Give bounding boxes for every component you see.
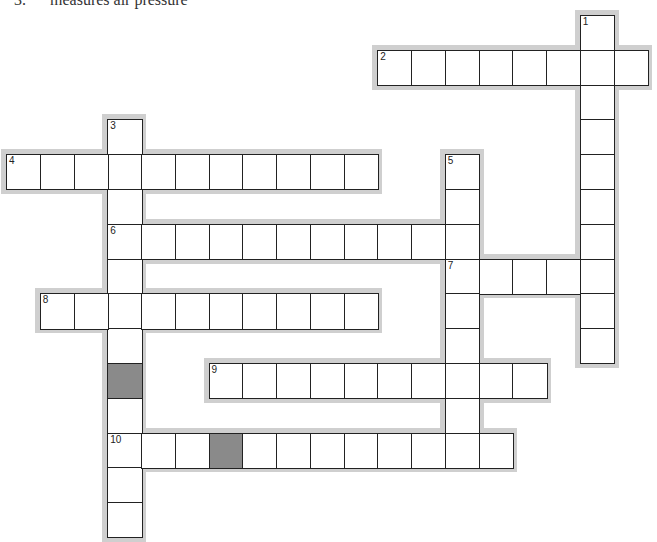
- crossword-cell[interactable]: [479, 259, 514, 295]
- crossword-cell[interactable]: [479, 50, 514, 86]
- clue-number-label: 7: [448, 261, 454, 271]
- crossword-cell[interactable]: [276, 433, 311, 469]
- crossword-cell[interactable]: [445, 328, 480, 364]
- crossword-cell[interactable]: 7: [445, 259, 480, 295]
- clue-number-label: 3: [110, 121, 116, 131]
- crossword-cell[interactable]: [175, 224, 210, 260]
- crossword-cell[interactable]: 2: [377, 50, 412, 86]
- crossword-cell[interactable]: [344, 363, 379, 399]
- crossword-cell[interactable]: [175, 433, 210, 469]
- crossword-cell[interactable]: 5: [445, 154, 480, 190]
- crossword-cell[interactable]: [310, 154, 345, 190]
- crossword-cell[interactable]: [580, 224, 615, 260]
- crossword-cell[interactable]: [479, 363, 514, 399]
- crossword-cell[interactable]: [242, 293, 277, 329]
- crossword-cell[interactable]: [310, 433, 345, 469]
- crossword-cell[interactable]: [107, 502, 142, 538]
- crossword-cell[interactable]: [107, 328, 142, 364]
- clue-number-label: 4: [9, 156, 15, 166]
- crossword-cell[interactable]: [74, 293, 109, 329]
- clue-number-label: 9: [212, 365, 218, 375]
- crossword-cell[interactable]: [411, 363, 446, 399]
- crossword-cell[interactable]: [310, 363, 345, 399]
- crossword-cell[interactable]: [377, 224, 412, 260]
- crossword-cell[interactable]: [344, 154, 379, 190]
- clue-number-label: 10: [110, 435, 121, 445]
- clue-number-label: 1: [583, 17, 589, 27]
- crossword-cell[interactable]: [141, 154, 176, 190]
- crossword-cell[interactable]: [445, 50, 480, 86]
- crossword-cell[interactable]: [344, 224, 379, 260]
- crossword-cell[interactable]: 3: [107, 119, 142, 155]
- crossword-cell[interactable]: 10: [107, 433, 142, 469]
- crossword-cell[interactable]: [141, 224, 176, 260]
- crossword-cell[interactable]: [276, 363, 311, 399]
- crossword-cell[interactable]: [242, 433, 277, 469]
- crossword-cell[interactable]: [479, 433, 514, 469]
- crossword-cell[interactable]: [175, 154, 210, 190]
- crossword-cell[interactable]: [546, 50, 581, 86]
- crossword-cell[interactable]: [242, 154, 277, 190]
- crossword-cell[interactable]: [377, 433, 412, 469]
- crossword-cell[interactable]: [242, 363, 277, 399]
- crossword-cell[interactable]: [411, 50, 446, 86]
- crossword-cell[interactable]: [580, 85, 615, 121]
- crossword-cell[interactable]: [580, 119, 615, 155]
- crossword-cell[interactable]: [580, 50, 615, 86]
- clue-number-label: 6: [110, 226, 116, 236]
- crossword-cell[interactable]: [512, 50, 547, 86]
- shaded-cell: [107, 363, 142, 399]
- crossword-cell[interactable]: 1: [580, 15, 615, 51]
- crossword-cell[interactable]: [546, 259, 581, 295]
- crossword-cell[interactable]: [141, 293, 176, 329]
- crossword-cell[interactable]: [209, 224, 244, 260]
- crossword-cell[interactable]: [580, 328, 615, 364]
- crossword-cell[interactable]: [107, 259, 142, 295]
- crossword-cell[interactable]: [411, 224, 446, 260]
- crossword-cell[interactable]: [445, 189, 480, 225]
- crossword-cell[interactable]: 8: [40, 293, 75, 329]
- crossword-cell[interactable]: 6: [107, 224, 142, 260]
- crossword-cell[interactable]: [580, 259, 615, 295]
- crossword-cell[interactable]: 9: [209, 363, 244, 399]
- crossword-cell[interactable]: [107, 467, 142, 503]
- crossword-cell[interactable]: [344, 433, 379, 469]
- clue-number-label: 5: [448, 156, 454, 166]
- crossword-cell[interactable]: [445, 398, 480, 434]
- crossword-cell[interactable]: [209, 293, 244, 329]
- crossword-cell[interactable]: [209, 154, 244, 190]
- crossword-cell[interactable]: [580, 154, 615, 190]
- crossword-cell[interactable]: [276, 293, 311, 329]
- crossword-cell[interactable]: [614, 50, 649, 86]
- crossword-cell[interactable]: [512, 259, 547, 295]
- crossword-cell[interactable]: [411, 433, 446, 469]
- crossword-cell[interactable]: [445, 363, 480, 399]
- clue-number-label: 8: [43, 295, 49, 305]
- crossword-cell[interactable]: [40, 154, 75, 190]
- crossword-cell[interactable]: [310, 293, 345, 329]
- crossword-cell[interactable]: 4: [6, 154, 41, 190]
- crossword-cell[interactable]: [310, 224, 345, 260]
- crossword-cell[interactable]: [580, 189, 615, 225]
- crossword-cell[interactable]: [445, 433, 480, 469]
- crossword-cell[interactable]: [74, 154, 109, 190]
- crossword-cell[interactable]: [107, 189, 142, 225]
- crossword-cell[interactable]: [276, 224, 311, 260]
- crossword-cell[interactable]: [107, 293, 142, 329]
- crossword-cell[interactable]: [580, 293, 615, 329]
- crossword-cell[interactable]: [445, 293, 480, 329]
- crossword-cell[interactable]: [445, 224, 480, 260]
- crossword-cell[interactable]: [175, 293, 210, 329]
- crossword-cell[interactable]: [141, 433, 176, 469]
- crossword-cell[interactable]: [107, 154, 142, 190]
- crossword-cell[interactable]: [344, 293, 379, 329]
- shaded-cell: [209, 433, 244, 469]
- crossword-cell[interactable]: [107, 398, 142, 434]
- crossword-cell[interactable]: [242, 224, 277, 260]
- crossword-cell[interactable]: [512, 363, 547, 399]
- clue-number-label: 2: [380, 52, 386, 62]
- crossword-cell[interactable]: [377, 363, 412, 399]
- crossword-cell[interactable]: [276, 154, 311, 190]
